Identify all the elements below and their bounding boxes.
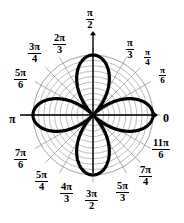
angle-label-theta-7pi-4: 7π4 xyxy=(139,165,152,187)
fraction-denominator: 4 xyxy=(139,177,152,188)
fraction-numerator: π xyxy=(86,8,94,20)
label-text: π xyxy=(9,113,16,125)
fraction-denominator: 3 xyxy=(60,194,73,205)
fraction-numerator: 11π xyxy=(152,138,170,150)
fraction: 7π4 xyxy=(139,165,152,187)
fraction: 5π4 xyxy=(35,170,48,192)
angle-label-theta-5pi-6: 5π6 xyxy=(14,68,27,90)
fraction-denominator: 2 xyxy=(85,201,98,212)
angle-label-theta-pi-6: π6 xyxy=(159,66,166,85)
angle-label-theta-3pi-2: 3π2 xyxy=(85,189,98,211)
angle-label-theta-11pi-6: 11π6 xyxy=(152,138,170,160)
fraction-numerator: 2π xyxy=(53,33,66,45)
angle-label-theta-5pi-4: 5π4 xyxy=(35,170,48,192)
angle-label-theta-4pi-3: 4π3 xyxy=(60,182,73,204)
angle-label-theta-pi: π xyxy=(9,110,16,126)
fraction: 2π3 xyxy=(53,33,66,55)
fraction: π3 xyxy=(126,38,134,60)
fraction: π2 xyxy=(86,8,94,30)
fraction: 7π6 xyxy=(14,148,27,170)
fraction-numerator: 7π xyxy=(14,148,27,160)
angle-label-theta-5pi-3: 5π3 xyxy=(116,181,129,203)
fraction: 3π2 xyxy=(85,189,98,211)
fraction-numerator: 7π xyxy=(139,165,152,177)
fraction: 11π6 xyxy=(152,138,170,160)
fraction: π6 xyxy=(159,66,166,85)
fraction: 4π3 xyxy=(60,182,73,204)
fraction-denominator: 4 xyxy=(28,54,41,65)
angle-label-theta-pi-2: π2 xyxy=(86,8,94,30)
fraction-denominator: 3 xyxy=(116,193,129,204)
fraction-numerator: 3π xyxy=(28,42,41,54)
fraction: 5π6 xyxy=(14,68,27,90)
fraction-numerator: 5π xyxy=(35,170,48,182)
angle-label-theta-pi-4: π4 xyxy=(144,48,151,67)
angle-label-theta-0: 0 xyxy=(163,109,169,125)
fraction-numerator: 3π xyxy=(85,189,98,201)
fraction-numerator: 4π xyxy=(60,182,73,194)
fraction-denominator: 6 xyxy=(159,76,166,85)
angle-label-theta-7pi-6: 7π6 xyxy=(14,148,27,170)
polar-plot-figure: 0π6π4π3π22π33π45π6π7π65π44π33π25π37π411π… xyxy=(0,0,184,223)
fraction-denominator: 4 xyxy=(35,182,48,193)
fraction-denominator: 4 xyxy=(144,58,151,67)
fraction-denominator: 6 xyxy=(14,80,27,91)
fraction-numerator: 5π xyxy=(14,68,27,80)
fraction-denominator: 6 xyxy=(14,160,27,171)
angle-label-theta-2pi-3: 2π3 xyxy=(53,33,66,55)
fraction: 5π3 xyxy=(116,181,129,203)
fraction: π4 xyxy=(144,48,151,67)
fraction-denominator: 2 xyxy=(86,20,94,31)
fraction-numerator: 5π xyxy=(116,181,129,193)
fraction: 3π4 xyxy=(28,42,41,64)
fraction-numerator: π xyxy=(126,38,134,50)
angle-label-theta-pi-3: π3 xyxy=(126,38,134,60)
fraction-denominator: 3 xyxy=(53,45,66,56)
angle-label-theta-3pi-4: 3π4 xyxy=(28,42,41,64)
fraction-denominator: 6 xyxy=(152,150,170,161)
label-text: 0 xyxy=(163,112,169,124)
fraction-denominator: 3 xyxy=(126,50,134,61)
axis-arrowhead xyxy=(90,31,96,35)
